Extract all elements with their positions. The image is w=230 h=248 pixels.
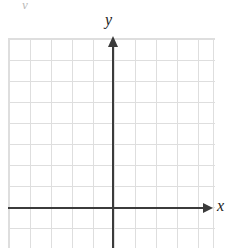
x-axis-label: x [217,197,224,215]
cut-off-text-artifact: y [22,0,32,9]
y-axis-line [112,46,114,248]
x-axis-right-arrow-icon [203,203,213,213]
y-axis-label: y [105,11,112,29]
grid-right-border [213,38,214,248]
x-axis-line [8,207,204,209]
graph-figure: y x y [0,0,230,248]
y-axis-up-arrow-icon [108,36,118,47]
